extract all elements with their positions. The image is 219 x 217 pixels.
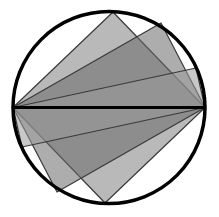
inscribed-rectangles-diagram (0, 0, 219, 217)
